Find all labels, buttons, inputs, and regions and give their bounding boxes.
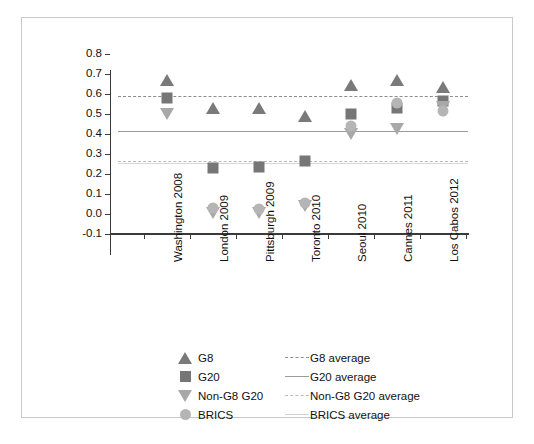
data-point bbox=[436, 81, 450, 93]
data-point bbox=[298, 110, 312, 122]
x-tick-mark bbox=[466, 234, 467, 239]
x-tick-mark bbox=[190, 234, 191, 239]
legend-item-brics[interactable]: BRICS bbox=[172, 405, 282, 424]
x-tick-mark bbox=[328, 234, 329, 239]
y-tick-label: 0.7 bbox=[74, 68, 102, 80]
y-axis-tick-labels: 0.8 0.7 0.6 0.5 0.4 0.3 0.2 0.1 0.0 -0.1 bbox=[72, 18, 102, 278]
figure-frame: 0.8 0.7 0.6 0.5 0.4 0.3 0.2 0.1 0.0 -0.1… bbox=[21, 17, 513, 418]
y-tick-mark bbox=[105, 54, 110, 55]
x-tick-mark bbox=[144, 234, 145, 239]
legend-label: BRICS bbox=[198, 409, 233, 421]
y-tick-label: 0.2 bbox=[74, 168, 102, 180]
x-axis-line bbox=[110, 233, 469, 235]
data-point bbox=[254, 204, 265, 215]
x-axis-label: Cannes 2011 bbox=[402, 194, 414, 262]
data-point bbox=[252, 102, 266, 114]
data-point bbox=[254, 162, 265, 173]
legend-label: BRICS average bbox=[310, 409, 390, 421]
legend-label: G20 bbox=[198, 371, 220, 383]
x-axis-label: London 2009 bbox=[218, 195, 230, 262]
x-axis-label: Washington 2008 bbox=[172, 173, 184, 262]
y-tick-label: 0.5 bbox=[74, 108, 102, 120]
data-point bbox=[300, 156, 311, 167]
y-tick-label: 0.1 bbox=[74, 188, 102, 200]
legend-item-non-g8-g20[interactable]: Non-G8 G20 bbox=[172, 386, 282, 405]
legend-label: Non-G8 G20 bbox=[198, 390, 263, 402]
data-point bbox=[160, 74, 174, 86]
data-point bbox=[438, 106, 449, 117]
legend-item-g20-average[interactable]: G20 average bbox=[284, 367, 474, 386]
average-line-non-g8-g20 bbox=[118, 161, 468, 162]
x-tick-mark bbox=[374, 234, 375, 239]
triangle-up-icon bbox=[172, 352, 198, 364]
legend-item-g20[interactable]: G20 bbox=[172, 367, 282, 386]
y-axis-line bbox=[110, 70, 111, 255]
x-axis-label: Seoul 2010 bbox=[356, 204, 368, 262]
x-tick-mark bbox=[282, 234, 283, 239]
average-line-g20 bbox=[118, 131, 468, 132]
data-point bbox=[346, 121, 357, 132]
dotted-line-icon bbox=[284, 395, 310, 396]
data-point bbox=[344, 79, 358, 91]
x-axis-label: Toronto 2010 bbox=[310, 195, 322, 262]
solid-line-icon bbox=[284, 376, 310, 377]
legend-item-g8-average[interactable]: G8 average bbox=[284, 348, 474, 367]
data-point bbox=[162, 93, 173, 104]
dashed-line-icon bbox=[284, 357, 310, 358]
legend-line-column: G8 average G20 average Non-G8 G20 averag… bbox=[284, 348, 474, 424]
data-point bbox=[346, 109, 357, 120]
y-tick-label: 0.3 bbox=[74, 148, 102, 160]
average-line-brics bbox=[118, 163, 468, 164]
legend-label: G8 bbox=[198, 352, 213, 364]
y-tick-label: 0.6 bbox=[74, 88, 102, 100]
data-point bbox=[208, 203, 219, 214]
x-axis-label: Los Cabos 2012 bbox=[448, 178, 460, 262]
legend-label: Non-G8 G20 average bbox=[310, 390, 420, 402]
y-tick-label: -0.1 bbox=[74, 228, 102, 240]
triangle-down-icon bbox=[172, 390, 198, 402]
data-point bbox=[160, 108, 174, 120]
legend-label: G20 average bbox=[310, 371, 377, 383]
data-point bbox=[208, 163, 219, 174]
legend-marker-column: G8 G20 Non-G8 G20 BRICS bbox=[172, 348, 282, 424]
x-tick-mark bbox=[236, 234, 237, 239]
y-tick-label: 0.0 bbox=[74, 208, 102, 220]
x-tick-mark bbox=[420, 234, 421, 239]
data-point bbox=[390, 74, 404, 86]
square-icon bbox=[172, 371, 198, 382]
circle-icon bbox=[172, 409, 198, 420]
legend-label: G8 average bbox=[310, 352, 370, 364]
data-point bbox=[392, 98, 403, 109]
y-tick-label: 0.8 bbox=[74, 48, 102, 60]
data-point bbox=[390, 123, 404, 135]
x-axis-label: Pittsburgh 2009 bbox=[264, 181, 276, 262]
data-point bbox=[206, 102, 220, 114]
y-tick-label: 0.4 bbox=[74, 128, 102, 140]
legend-item-g8[interactable]: G8 bbox=[172, 348, 282, 367]
legend-item-brics-average[interactable]: BRICS average bbox=[284, 405, 474, 424]
legend-item-non-g8-g20-average[interactable]: Non-G8 G20 average bbox=[284, 386, 474, 405]
data-point bbox=[300, 198, 311, 209]
light-line-icon bbox=[284, 414, 310, 415]
